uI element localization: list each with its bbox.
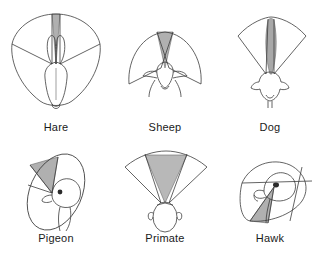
pigeon-diagram	[2, 147, 110, 239]
panel-sheep: Sheep	[111, 0, 219, 129]
pigeon-neck	[59, 207, 61, 231]
panel-pigeon: Pigeon	[2, 129, 110, 258]
primate-head-outline	[153, 202, 177, 232]
panel-caption-pigeon: Pigeon	[2, 232, 110, 244]
sheep-right-whisker	[175, 80, 181, 97]
panel-caption-hawk: Hawk	[216, 232, 324, 244]
sheep-binocular-wedge	[157, 32, 173, 68]
pigeon-bill	[42, 195, 52, 203]
primate-binocular-wedge	[145, 155, 187, 203]
sheep-left-whisker	[149, 80, 155, 97]
dog-left-field-line	[238, 36, 266, 74]
panel-dog: Dog	[216, 0, 324, 129]
hawk-field-chord-2	[290, 167, 302, 221]
panel-hawk: Hawk	[216, 129, 324, 258]
hare-left-field-line	[12, 44, 52, 64]
dog-right-field-line	[274, 36, 306, 74]
visual-fields-figure: Hare	[0, 0, 326, 258]
hawk-diagram	[216, 147, 324, 239]
hare-diagram	[2, 0, 110, 112]
dog-diagram	[216, 0, 324, 112]
panel-caption-primate: Primate	[111, 232, 219, 244]
panel-hare: Hare	[2, 0, 110, 129]
hawk-field-chord-1	[242, 181, 312, 183]
dog-muzzle	[266, 95, 274, 98]
hare-right-field-line	[60, 44, 100, 64]
dog-head-outline	[251, 72, 289, 101]
sheep-diagram	[111, 0, 219, 112]
dog-snout	[268, 101, 272, 108]
pigeon-head-outline	[52, 179, 81, 208]
primate-right-ear	[177, 212, 182, 219]
sheep-left-ear	[143, 71, 157, 78]
panel-primate: Primate	[111, 129, 219, 258]
primate-left-ear	[148, 212, 153, 219]
pigeon-body-line	[66, 207, 71, 231]
pigeon-eye	[58, 190, 63, 195]
hawk-eye	[273, 183, 279, 188]
sheep-right-ear	[173, 71, 187, 78]
primate-diagram	[111, 147, 219, 239]
